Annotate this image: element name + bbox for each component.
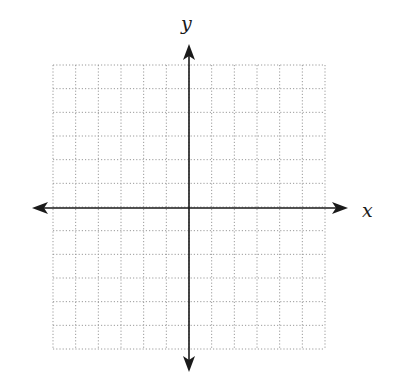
x-axis-label: x [362, 201, 373, 220]
coordinate-plane: y x [0, 0, 401, 385]
y-axis-label: y [181, 14, 192, 33]
coordinate-grid [0, 0, 401, 385]
